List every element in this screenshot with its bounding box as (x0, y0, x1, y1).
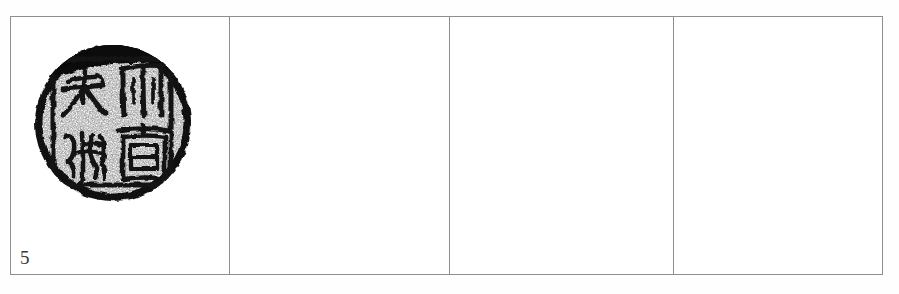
cell-4-content (674, 17, 882, 274)
table-cell-1[interactable]: 5 (11, 17, 230, 275)
cell-3-content (450, 17, 673, 274)
table-cell-2[interactable] (230, 17, 450, 275)
table-cell-3[interactable] (450, 17, 674, 275)
cell-1-content: 5 (11, 17, 229, 274)
circular-seal-rubbing (27, 25, 199, 221)
table-row: 5 (11, 17, 883, 275)
seal-impression-svg (27, 25, 199, 221)
table-cell-4[interactable] (674, 17, 883, 275)
page-canvas: 5 (0, 0, 899, 294)
seal-grain-overlay (35, 45, 191, 201)
seal-plate-table: 5 (10, 16, 883, 275)
cell-2-content (230, 17, 449, 274)
plate-number-label: 5 (20, 248, 30, 268)
